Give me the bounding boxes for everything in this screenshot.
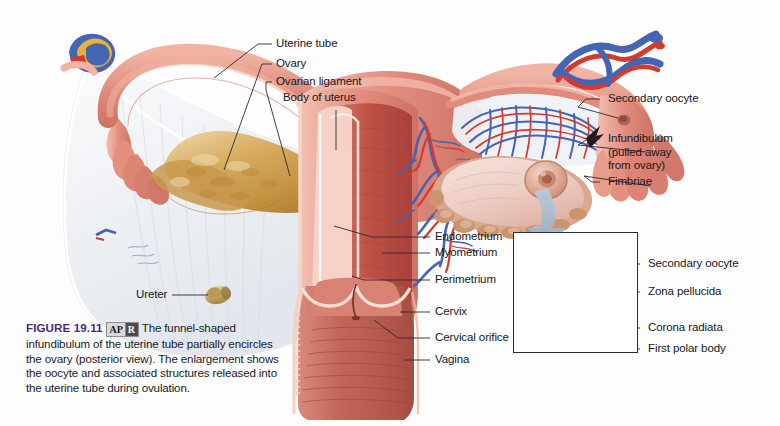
label-vagina: Vagina — [435, 353, 469, 367]
label-myometrium: Myometrium — [435, 246, 497, 260]
label-fimbriae: Fimbriae — [608, 175, 652, 189]
label-infundibulum: Infundibulum (pulled away from ovary) — [608, 132, 673, 173]
cervix-vagina — [294, 278, 418, 420]
figure-caption: FIGURE 19.11APRThe funnel-shaped infundi… — [26, 321, 288, 395]
apr-badge-r: R — [125, 323, 138, 336]
label-perimetrium: Perimetrium — [435, 273, 496, 287]
label-body-of-uterus: Body of uterus — [283, 91, 356, 105]
cervix-body — [310, 278, 402, 316]
label-cervical-orifice: Cervical orifice — [435, 331, 509, 345]
cut-vessels-right — [556, 33, 665, 88]
label-uterine-tube: Uterine tube — [276, 37, 337, 51]
label-endometrium: Endometrium — [435, 230, 502, 244]
label-secondary-oocyte-main: Secondary oocyte — [608, 92, 698, 106]
label-ovary: Ovary — [276, 57, 306, 71]
apr-badge: APR — [106, 322, 139, 337]
secondary-oocyte-main — [618, 115, 631, 126]
label-ovarian-ligament: Ovarian ligament — [276, 75, 361, 89]
label-secondary-oocyte-inset: Secondary oocyte — [648, 257, 738, 271]
apr-badge-ap: AP — [107, 323, 125, 336]
label-ureter: Ureter — [136, 288, 167, 302]
figure-19-11: Uterine tube Ovary Ovarian ligament Body… — [0, 0, 780, 426]
inset-frame — [513, 232, 638, 353]
cut-vessels-left — [64, 34, 115, 73]
figure-number: FIGURE 19.11 — [26, 321, 103, 334]
label-zona-pellucida: Zona pellucida — [648, 285, 721, 299]
label-cervix: Cervix — [435, 305, 467, 319]
label-first-polar-body: First polar body — [648, 342, 726, 356]
ovary-right — [428, 156, 592, 239]
label-corona-radiata: Corona radiata — [648, 321, 723, 335]
